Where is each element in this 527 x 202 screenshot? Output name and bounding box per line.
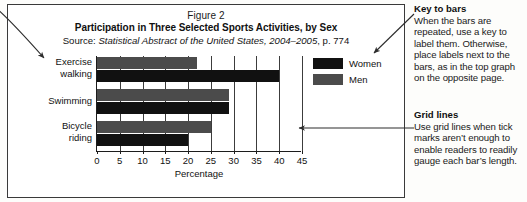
figure-source-tail: , p. 774: [317, 35, 349, 46]
note-key-to-bars-body: When the bars are repeated, use a key to…: [414, 15, 525, 85]
legend-swatch-men: [313, 74, 343, 85]
x-tick-mark: [120, 151, 121, 154]
x-axis-title: Percentage: [97, 168, 301, 179]
x-tick-label: 40: [274, 155, 285, 166]
x-tick-mark: [143, 151, 144, 154]
bar-group: Swimming: [97, 89, 301, 115]
x-tick-mark: [211, 151, 212, 154]
x-tick-mark: [302, 151, 303, 154]
note-grid-lines: Grid lines Use grid lines when tick mark…: [414, 109, 525, 167]
figure-source-italic: Statistical Abstract of the United State…: [98, 35, 317, 46]
bar-women-bicycle-riding: [97, 134, 188, 146]
category-label-line: riding: [11, 132, 92, 144]
note-key-to-bars-heading: Key to bars: [414, 3, 525, 15]
x-tick-label: 10: [137, 155, 148, 166]
figure-annotation-page: Figure 2 Participation in Three Selected…: [0, 0, 527, 202]
x-tick-label: 25: [206, 155, 217, 166]
legend-item-men: Men: [313, 74, 397, 85]
figure-title: Participation in Three Selected Sports A…: [8, 22, 404, 33]
figure-source: Source: Statistical Abstract of the Unit…: [8, 35, 404, 46]
figure-source-lead: Source:: [63, 35, 99, 46]
figure-number-label: Figure 2: [8, 10, 404, 21]
category-label-line: Bicycle: [11, 120, 92, 132]
note-key-to-bars: Key to bars When the bars are repeated, …: [414, 3, 525, 84]
bar-group: Exercisewalking: [97, 57, 301, 83]
x-tick-label: 35: [251, 155, 262, 166]
x-tick-mark: [97, 151, 98, 154]
category-label-line: Exercise: [11, 56, 92, 68]
legend-label: Men: [349, 74, 367, 85]
x-tick-label: 5: [117, 155, 122, 166]
x-tick-label: 20: [183, 155, 194, 166]
x-tick-label: 45: [297, 155, 308, 166]
legend-item-women: Women: [313, 58, 397, 69]
bar-men-swimming: [97, 89, 229, 101]
bar-women-exercise-walking: [97, 70, 279, 82]
bar-group: Bicycleriding: [97, 121, 301, 147]
category-label: Exercisewalking: [11, 56, 97, 79]
x-tick-mark: [279, 151, 280, 154]
note-grid-lines-body: Use grid lines when tick marks aren’t en…: [414, 121, 525, 167]
category-label: Swimming: [11, 95, 97, 107]
plot-area: ExercisewalkingSwimmingBicycleriding 051…: [96, 56, 301, 152]
x-tick-mark: [188, 151, 189, 154]
category-label-line: Swimming: [11, 95, 92, 107]
annotation-sidebar: Key to bars When the bars are repeated, …: [414, 0, 527, 202]
x-tick-label: 0: [94, 155, 99, 166]
category-label-line: walking: [11, 68, 92, 80]
x-tick-label: 15: [160, 155, 171, 166]
figure-panel: Figure 2 Participation in Three Selected…: [7, 4, 405, 198]
x-tick-mark: [234, 151, 235, 154]
gridline: [302, 56, 303, 151]
x-tick-mark: [256, 151, 257, 154]
note-grid-lines-heading: Grid lines: [414, 109, 525, 121]
legend-swatch-women: [313, 58, 343, 69]
bar-men-bicycle-riding: [97, 121, 211, 133]
bar-men-exercise-walking: [97, 57, 197, 69]
bar-women-swimming: [97, 102, 229, 114]
x-tick-mark: [165, 151, 166, 154]
category-label: Bicycleriding: [11, 120, 97, 143]
legend-label: Women: [349, 58, 382, 69]
x-tick-label: 30: [228, 155, 239, 166]
chart-legend: WomenMen: [313, 58, 397, 90]
